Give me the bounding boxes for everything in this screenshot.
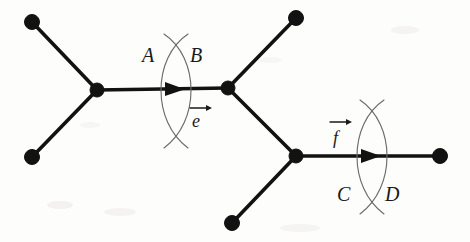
- label-cut-e-left: A: [140, 44, 155, 66]
- arrowhead-f-icon: [361, 149, 381, 163]
- label-cut-f-right: D: [384, 183, 400, 205]
- label-cut-e-right: B: [190, 44, 202, 66]
- node-leaf-bottom-left: [25, 150, 40, 165]
- node-leaf-right: [433, 149, 448, 164]
- node-vertex-left: [90, 83, 104, 97]
- vector-f-accent-head-icon: [346, 119, 352, 125]
- node-vertex-middle: [221, 81, 235, 95]
- paper-texture: [47, 26, 419, 232]
- edge-e: [97, 88, 228, 90]
- edge-topright: [228, 18, 296, 88]
- graph-diagram: A B C D e f: [0, 0, 470, 242]
- node-leaf-bottom: [225, 216, 240, 231]
- node-vertex-lower: [289, 149, 303, 163]
- vector-label-f: f: [330, 119, 352, 148]
- arrowhead-e-icon: [165, 82, 185, 96]
- vector-label-e: e: [190, 105, 212, 131]
- vector-e-letter: e: [192, 111, 200, 131]
- figure-canvas: A B C D e f: [0, 0, 470, 242]
- vector-e-accent-head-icon: [206, 105, 212, 111]
- vector-f-letter: f: [333, 128, 341, 148]
- edge-topleft: [32, 22, 97, 90]
- node-leaf-top-right: [289, 11, 304, 26]
- edge-middle-lower: [228, 88, 296, 156]
- edge-bottom: [232, 156, 296, 223]
- label-cut-f-left: C: [337, 183, 351, 205]
- node-leaf-top-left: [25, 15, 40, 30]
